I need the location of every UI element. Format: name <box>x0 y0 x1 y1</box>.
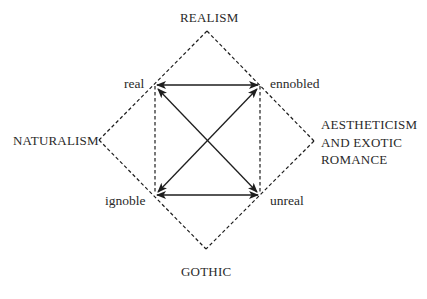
label-aestheticism-line-2: AND EXOTIC <box>321 134 417 152</box>
label-realism: REALISM <box>180 11 238 24</box>
label-gothic: GOTHIC <box>181 265 231 278</box>
label-aestheticism-and-exotic-romance: AESTHETICISM AND EXOTIC ROMANCE <box>321 116 417 169</box>
label-aestheticism-line-3: ROMANCE <box>321 151 417 169</box>
label-real: real <box>124 77 144 91</box>
solid-arrow-relations <box>157 85 258 195</box>
label-naturalism: NATURALISM <box>13 134 99 147</box>
label-unreal: unreal <box>270 194 304 208</box>
label-aestheticism-line-1: AESTHETICISM <box>321 116 417 134</box>
label-ignoble: ignoble <box>105 194 146 208</box>
label-ennobled: ennobled <box>270 77 320 91</box>
